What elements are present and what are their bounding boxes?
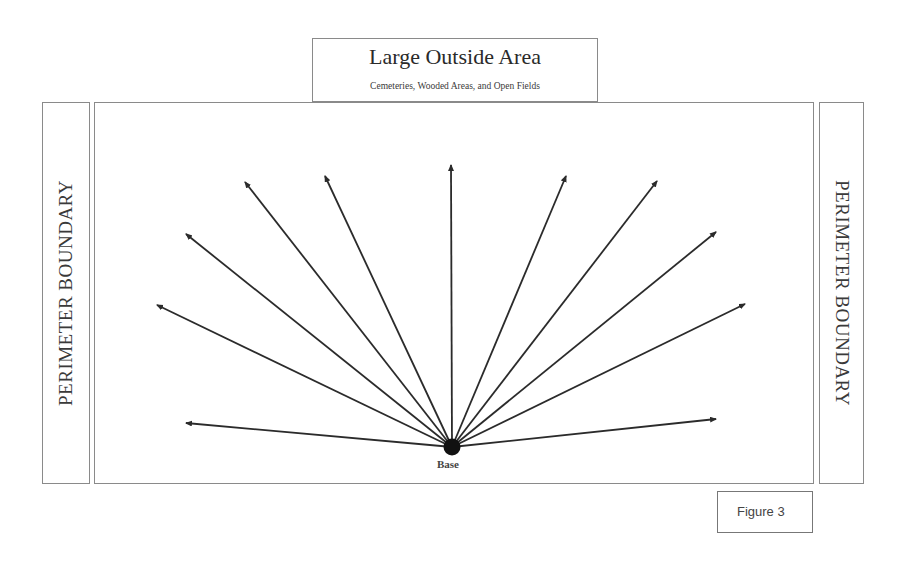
direction-arrow-5 (325, 176, 452, 447)
direction-arrow-10 (452, 304, 745, 447)
search-direction-arrows (157, 165, 745, 447)
direction-arrow-11 (452, 419, 716, 447)
direction-arrow-9 (452, 232, 716, 447)
base-point-icon (444, 439, 461, 456)
direction-arrow-7 (452, 176, 566, 447)
radial-arrows-diagram (0, 0, 910, 567)
direction-arrow-6 (451, 165, 452, 447)
direction-arrow-8 (452, 181, 657, 447)
figure-label: Figure 3 (737, 504, 812, 519)
base-label: Base (437, 458, 459, 470)
figure-caption-box: Figure 3 (717, 491, 813, 533)
direction-arrow-1 (186, 423, 452, 447)
direction-arrow-3 (186, 234, 452, 447)
direction-arrow-4 (245, 182, 452, 447)
direction-arrow-2 (157, 305, 452, 447)
